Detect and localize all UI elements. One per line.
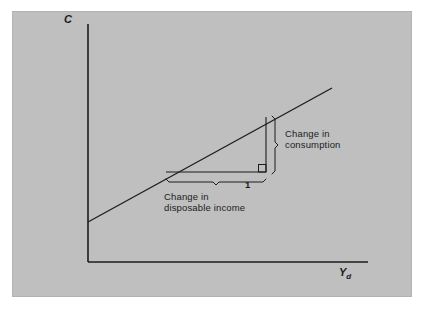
disposable-income-brace <box>166 179 266 185</box>
x-axis-label: Yd <box>339 266 351 282</box>
x-axis-label-subscript: d <box>346 272 351 281</box>
consumption-brace <box>272 116 278 174</box>
run-unit-label: 1 <box>245 180 250 191</box>
figure-container: C Yd Change in consumption Change in dis… <box>0 0 426 310</box>
consumption-function-diagram <box>0 0 426 310</box>
change-in-disposable-income-label: Change in disposable income <box>164 192 245 213</box>
right-angle-marker <box>259 165 267 173</box>
y-axis-label: C <box>64 13 72 25</box>
change-in-consumption-label: Change in consumption <box>285 129 341 150</box>
